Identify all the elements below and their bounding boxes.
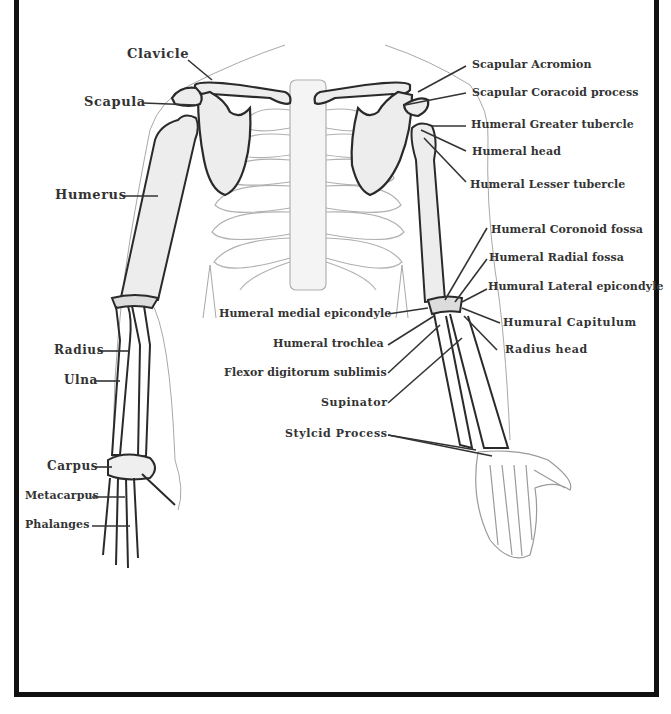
label-scapula: Scapula — [84, 94, 146, 109]
label-ulna: Ulna — [64, 373, 98, 387]
scapula-left — [198, 92, 250, 195]
label-clavicle: Clavicle — [127, 46, 189, 61]
label-supinator: Supinator — [321, 396, 388, 409]
right-hand — [476, 451, 571, 558]
label-humeral-medial-epicondyle: Humeral medial epicondyle — [219, 307, 391, 320]
label-phalanges: Phalanges — [25, 518, 89, 531]
label-radius: Radius — [54, 343, 104, 357]
acromion-left — [172, 88, 202, 106]
label-scapular-acromion: Scapular Acromion — [472, 58, 592, 71]
label-humeral-head: Humeral head — [472, 145, 561, 158]
label-flexor-digitorum: Flexor digitorum sublimis — [224, 366, 387, 379]
label-humeral-trochlea: Humeral trochlea — [273, 337, 384, 350]
label-radius-head: Radius head — [505, 343, 588, 356]
label-humerus: Humerus — [55, 187, 127, 202]
label-humeral-lesser-tubercle: Humeral Lesser tubercle — [470, 178, 625, 191]
scapula-right — [352, 92, 412, 195]
label-styloid-process: Stylcid Process — [285, 427, 387, 440]
label-humeral-radial-fossa: Humeral Radial fossa — [489, 251, 624, 264]
label-humural-capitulum: Humural Capitulum — [503, 316, 637, 329]
label-humeral-coronoid-fossa: Humeral Coronoid fossa — [491, 223, 643, 236]
label-humeral-greater-tubercle: Humeral Greater tubercle — [471, 118, 634, 131]
left-arm-bones — [103, 115, 198, 568]
label-scapular-coracoid: Scapular Coracoid process — [472, 86, 639, 99]
label-carpus: Carpus — [47, 459, 98, 473]
label-metacarpus: Metacarpus — [25, 489, 99, 502]
label-humural-lateral-epicondyle: Humural Lateral epicondyle — [488, 280, 664, 293]
